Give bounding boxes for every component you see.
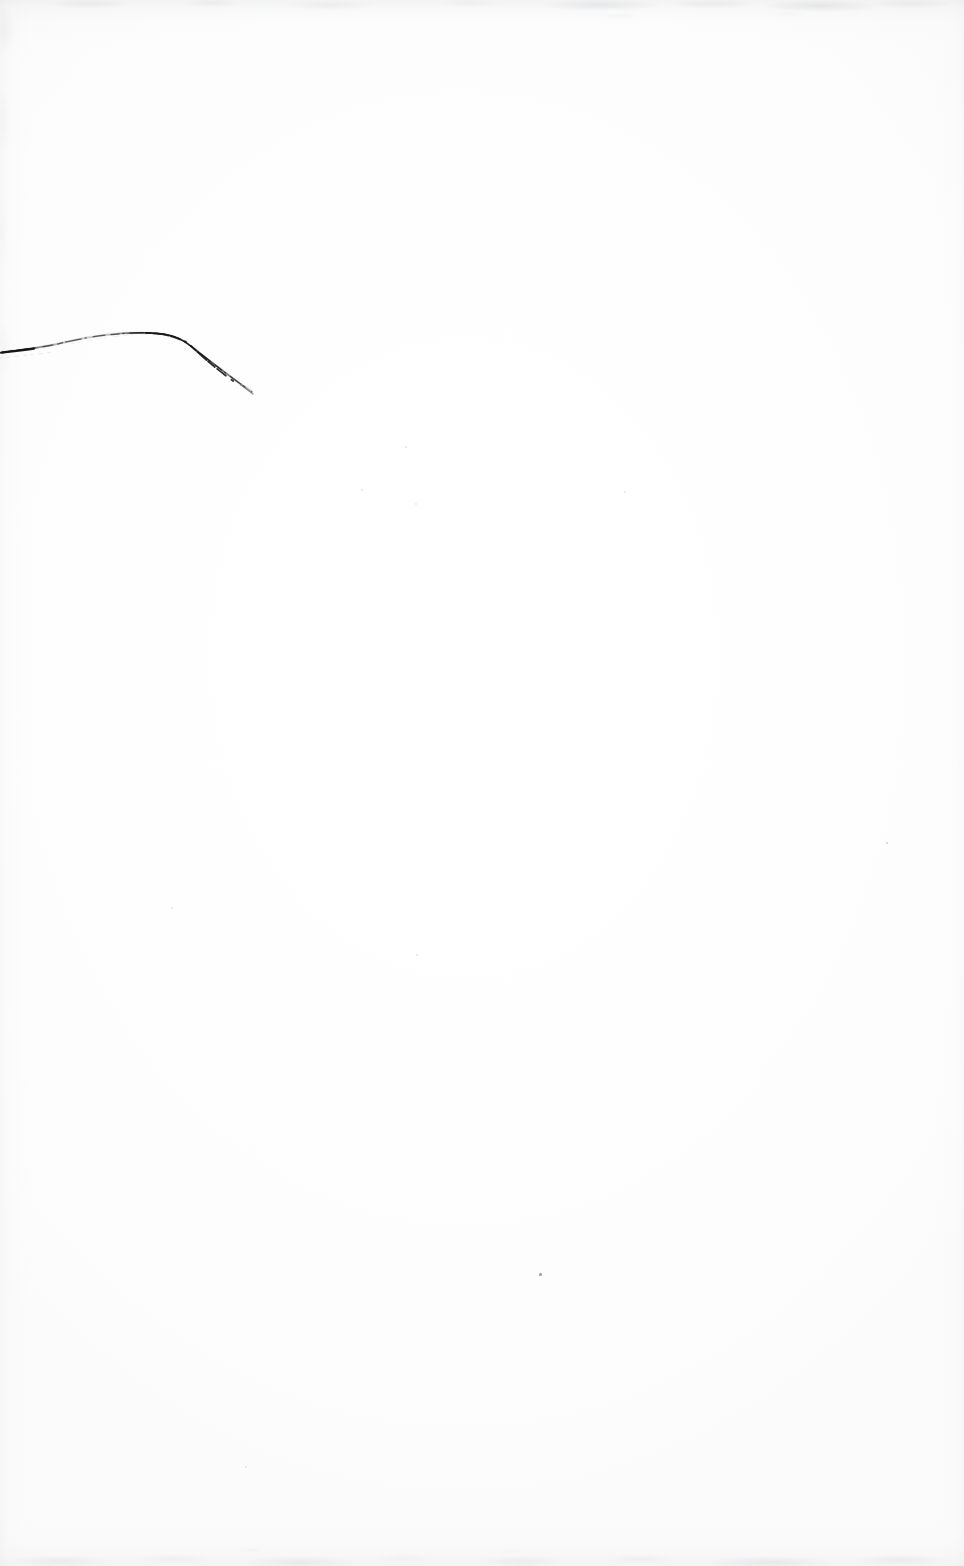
- paper-background: [0, 0, 964, 1566]
- scanned-page: [0, 0, 964, 1566]
